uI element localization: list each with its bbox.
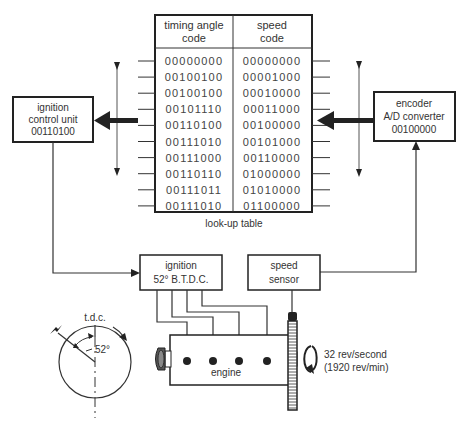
timing-code-cell: 00110100: [165, 119, 223, 131]
timing-code-cell: 00000000: [165, 55, 224, 67]
rotation-speed-line2: (1920 rev/min): [324, 362, 388, 373]
timing-code-cell: 00111000: [166, 152, 223, 164]
ignition-line1: ignition: [165, 260, 197, 271]
encoder-ad-converter: encoder A/D converter 00100000: [374, 92, 455, 141]
encoder-line1: encoder: [396, 98, 433, 109]
encoder-input-arrowhead: [412, 141, 420, 150]
angle-pointer: [86, 349, 92, 351]
speed-code-cell: 00000000: [243, 55, 302, 67]
rotation-speed-line1: 32 rev/second: [324, 349, 387, 360]
engine: engine: [156, 321, 298, 410]
speed-code-cell: 01100000: [243, 200, 301, 212]
timing-code-cell: 00110110: [166, 168, 223, 180]
speed-sensor-box: speed sensor: [248, 255, 320, 290]
speed-code-cell: 01010000: [243, 184, 302, 196]
speed-code-cell: 01000000: [243, 168, 302, 180]
speed-code-cell: 00010000: [243, 87, 302, 99]
lookup-table-caption: look-up table: [205, 218, 263, 229]
spark-icon: [50, 325, 62, 334]
speed-sensor-line1: speed: [270, 260, 297, 271]
encoder-to-table-arrow: [317, 111, 374, 130]
icu-line3: 00110100: [31, 126, 75, 137]
spark-plug: [263, 357, 271, 365]
speed-code-cell: 00001000: [243, 71, 302, 83]
speed-code-cell: 00100000: [243, 119, 302, 131]
header-speed-line1: speed: [257, 19, 287, 31]
timing-code-cell: 00100100: [165, 87, 224, 99]
timing-dial: t.d.c. 52°: [50, 312, 131, 418]
ignition-line2: 52° B.T.D.C.: [153, 274, 208, 285]
tdc-label: t.d.c.: [84, 312, 106, 323]
table-to-icu-arrow: [94, 111, 138, 130]
timing-code-cell: 00101110: [166, 103, 223, 115]
encoder-line3: 00100000: [392, 124, 437, 135]
spark-plug: [183, 357, 191, 365]
angle-label: 52°: [95, 344, 110, 355]
timing-code-cell: 00111011: [166, 184, 222, 196]
header-timing-line2: code: [182, 32, 206, 44]
toothed-flywheel: [288, 321, 297, 410]
timing-code-cell: 00111010: [166, 136, 223, 148]
speed-code-cell: 00110000: [243, 152, 301, 164]
ignition-timing-diagram: timing angle code speed code 00000000000…: [0, 0, 464, 430]
lookup-table: timing angle code speed code 00000000000…: [138, 15, 330, 229]
icu-line1: ignition: [37, 102, 69, 113]
ignition-box: ignition 52° B.T.D.C.: [140, 255, 222, 290]
ignition-input-arrowhead: [131, 269, 140, 277]
timing-code-cell: 00111010: [166, 200, 223, 212]
ignition-control-unit: ignition control unit 00110100: [13, 97, 93, 142]
header-speed-line2: code: [260, 32, 284, 44]
speed-sensor-pickup: [288, 312, 297, 321]
rotation-arrow-icon: [304, 346, 316, 374]
pulley-icon: [156, 348, 172, 370]
spark-plug: [235, 357, 243, 365]
encoder-line2: A/D converter: [383, 111, 445, 122]
speed-code-cell: 00011000: [243, 103, 301, 115]
header-timing-line1: timing angle: [164, 19, 223, 31]
icu-to-ignition-line: [53, 142, 136, 273]
spark-plug: [209, 357, 217, 365]
engine-label: engine: [211, 367, 241, 378]
timing-code-cell: 00100100: [165, 71, 224, 83]
speed-sensor-to-encoder-line: [320, 146, 416, 272]
icu-line2: control unit: [29, 114, 78, 125]
speed-sensor-line2: sensor: [269, 274, 300, 285]
speed-code-cell: 00101000: [243, 136, 302, 148]
